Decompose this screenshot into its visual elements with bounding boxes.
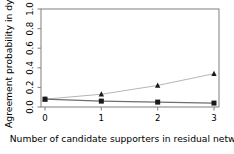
x-axis-label: Number of candidate supporters in residu… — [10, 133, 234, 144]
y-tick-label: 0.4 — [25, 61, 35, 75]
data-point-square — [155, 100, 160, 105]
x-tick-label: 3 — [211, 113, 216, 123]
data-point-square — [212, 101, 217, 106]
line-chart: 0.0 0.2 0.4 0.6 0.8 1.0 Agreement probab… — [0, 0, 234, 154]
y-tick-label: 0.8 — [25, 22, 35, 36]
y-axis-tick-labels: 0.0 0.2 0.4 0.6 0.8 1.0 — [25, 2, 35, 114]
y-axis-label: Agreement probability in dyad — [3, 0, 14, 128]
data-point-square — [99, 99, 104, 104]
plot-area-background — [41, 9, 219, 107]
y-tick-label: 0.2 — [25, 81, 35, 95]
x-tick-label: 0 — [42, 113, 47, 123]
y-tick-label: 1.0 — [25, 2, 35, 16]
x-tick-label: 2 — [155, 113, 160, 123]
chart-figure: 0.0 0.2 0.4 0.6 0.8 1.0 Agreement probab… — [0, 0, 234, 154]
x-tick-label: 1 — [99, 113, 104, 123]
y-tick-label: 0.0 — [25, 100, 35, 114]
y-tick-label: 0.6 — [25, 41, 35, 55]
x-axis-tick-labels: 0 1 2 3 — [42, 113, 216, 123]
data-point-square — [43, 97, 48, 102]
